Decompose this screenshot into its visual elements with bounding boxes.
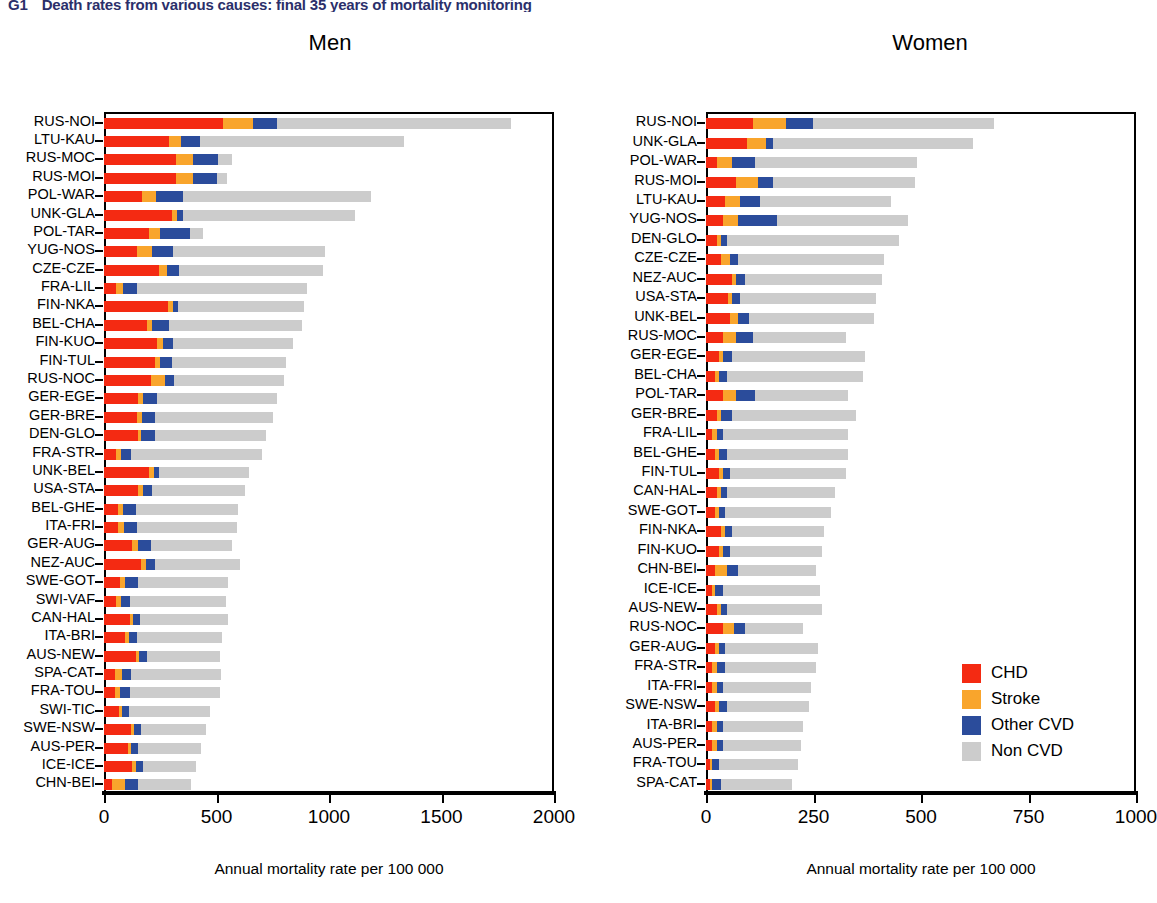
y-axis-label: CAN-HAL — [31, 609, 95, 625]
bar-segment-noncvd — [727, 235, 899, 246]
bar-segment-noncvd — [138, 779, 191, 790]
bar-segment-noncvd — [143, 761, 196, 772]
y-tick — [95, 140, 103, 142]
y-axis-label: RUS-MOC — [26, 149, 95, 165]
bar-segment-noncvd — [183, 191, 371, 202]
bar-row: POL-WAR — [706, 157, 1136, 168]
y-tick — [95, 361, 103, 363]
y-axis-label: FRA-LIL — [41, 278, 95, 294]
bar-segment-ocvd — [738, 215, 777, 226]
bar-segment-noncvd — [723, 682, 811, 693]
bar-segment-chd — [706, 507, 715, 518]
y-axis-label: RUS-NOI — [34, 113, 95, 129]
y-tick — [95, 379, 103, 381]
bar-segment-noncvd — [725, 662, 815, 673]
bar-segment-ocvd — [717, 662, 726, 673]
x-tick-label: 1500 — [420, 806, 462, 828]
y-tick — [697, 569, 705, 571]
y-axis-label: NEZ-AUC — [633, 269, 697, 285]
y-axis-label: FIN-KUO — [637, 541, 697, 557]
stacked-bar — [104, 449, 262, 460]
bar-segment-stroke — [753, 118, 785, 129]
legend-item-ocvd: Other CVD — [962, 712, 1074, 738]
bar-segment-stroke — [112, 779, 126, 790]
stacked-bar — [104, 338, 293, 349]
bar-segment-chd — [104, 283, 116, 294]
bar-segment-ocvd — [181, 136, 200, 147]
stacked-bar — [104, 246, 325, 257]
bar-segment-noncvd — [721, 779, 792, 790]
bar-segment-ocvd — [193, 154, 218, 165]
y-tick — [95, 471, 103, 473]
bar-segment-chd — [104, 632, 125, 643]
bar-segment-chd — [104, 614, 130, 625]
y-axis-label: UNK-GLA — [633, 133, 697, 149]
bar-segment-noncvd — [155, 412, 273, 423]
bar-segment-noncvd — [138, 743, 201, 754]
bar-row: SPA-CAT — [104, 669, 554, 680]
bar-row: AUS-NEW — [104, 651, 554, 662]
y-axis-label: ITA-FRI — [45, 517, 95, 533]
bar-segment-ocvd — [142, 412, 154, 423]
y-axis-label: BEL-GHE — [633, 444, 697, 460]
bar-segment-noncvd — [773, 138, 973, 149]
bar-row: YUG-NOS — [706, 215, 1136, 226]
bar-segment-noncvd — [740, 293, 875, 304]
y-tick — [697, 181, 705, 183]
y-tick — [697, 530, 705, 532]
stacked-bar — [706, 623, 803, 634]
y-axis-label: GER-AUG — [629, 638, 697, 654]
bar-row: DEN-GLO — [706, 235, 1136, 246]
bar-segment-ocvd — [123, 283, 137, 294]
bar-segment-noncvd — [131, 669, 221, 680]
bar-row: SWI-TIC — [104, 706, 554, 717]
y-tick — [697, 589, 705, 591]
stacked-bar — [104, 136, 404, 147]
stacked-bar — [706, 410, 856, 421]
stacked-bar — [706, 177, 915, 188]
stacked-bar — [104, 724, 206, 735]
bar-segment-chd — [104, 779, 112, 790]
stacked-bar — [706, 449, 848, 460]
bar-segment-noncvd — [137, 632, 223, 643]
bar-segment-noncvd — [723, 585, 820, 596]
y-tick — [697, 472, 705, 474]
stacked-bar — [104, 559, 240, 570]
bar-segment-ocvd — [715, 585, 724, 596]
bar-row: YUG-NOS — [104, 246, 554, 257]
bar-segment-chd — [706, 565, 715, 576]
bar-segment-chd — [104, 375, 151, 386]
bar-segment-chd — [706, 215, 723, 226]
bar-segment-noncvd — [131, 449, 262, 460]
y-tick — [95, 195, 103, 197]
bar-segment-chd — [104, 191, 142, 202]
bar-row: POL-WAR — [104, 191, 554, 202]
y-tick — [95, 158, 103, 160]
stacked-bar — [706, 429, 848, 440]
bar-segment-ocvd — [123, 504, 135, 515]
stacked-bar — [706, 526, 824, 537]
legend-item-noncvd: Non CVD — [962, 738, 1074, 764]
bar-segment-noncvd — [277, 118, 511, 129]
bar-segment-ocvd — [732, 157, 756, 168]
y-tick — [697, 686, 705, 688]
bar-segment-chd — [104, 687, 115, 698]
bar-segment-ocvd — [129, 632, 137, 643]
y-axis-label: SWE-GOT — [628, 502, 697, 518]
stacked-bar — [104, 412, 273, 423]
stacked-bar — [706, 138, 973, 149]
bar-segment-ocvd — [152, 246, 172, 257]
bar-segment-noncvd — [727, 701, 809, 712]
bar-segment-ocvd — [120, 687, 130, 698]
y-tick — [95, 508, 103, 510]
y-axis-label: SWE-GOT — [26, 572, 95, 588]
y-axis-label: FRA-STR — [634, 657, 697, 673]
bar-row: GER-BRE — [104, 412, 554, 423]
x-tick-label: 1000 — [1115, 806, 1157, 828]
bar-row: GER-AUG — [706, 643, 1136, 654]
bar-segment-ocvd — [736, 390, 755, 401]
stacked-bar — [706, 585, 820, 596]
bar-segment-ocvd — [723, 351, 732, 362]
stacked-bar — [706, 759, 798, 770]
bar-segment-ocvd — [125, 779, 137, 790]
